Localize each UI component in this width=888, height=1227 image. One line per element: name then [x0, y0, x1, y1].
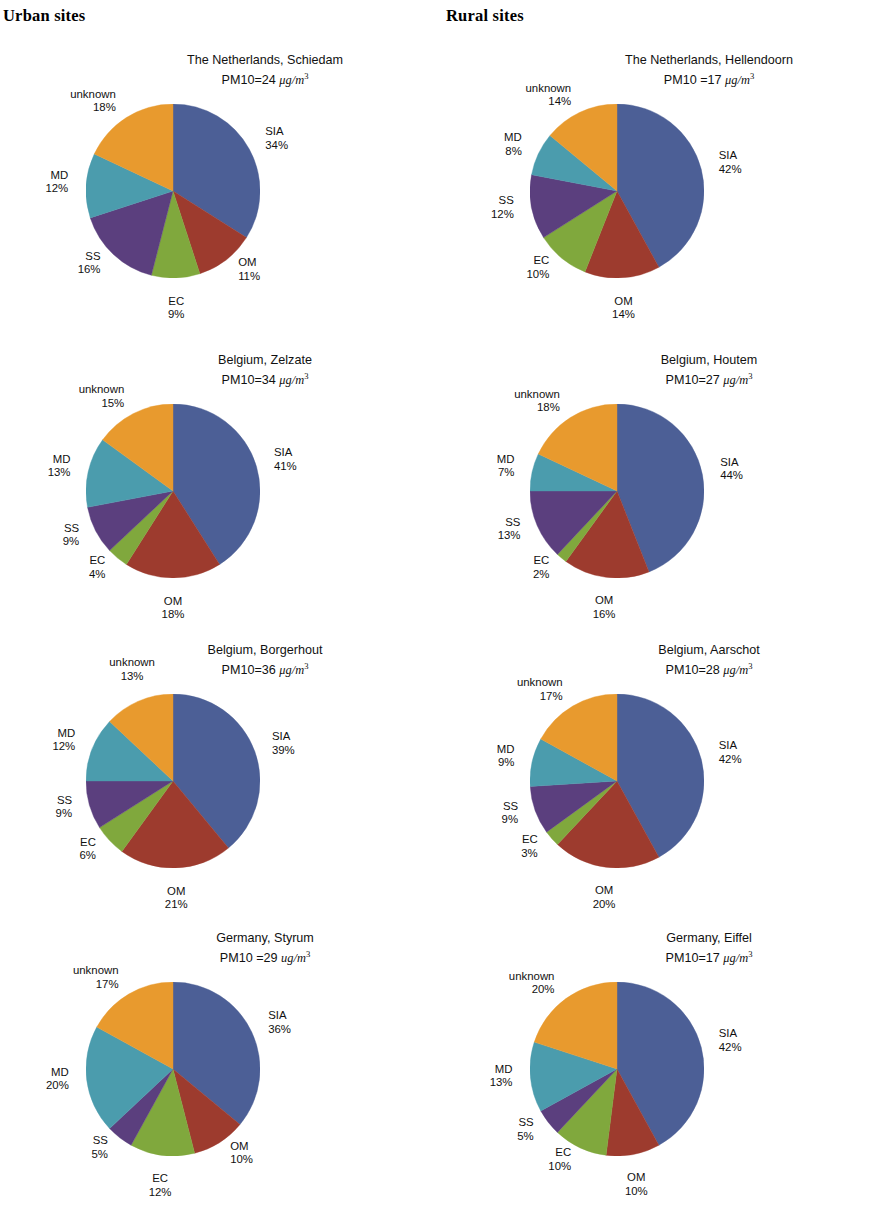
- pie-graphic-houtem: [530, 404, 704, 578]
- pie-label-name: unknown: [73, 964, 119, 976]
- pie-label-ss-borgerhout: SS9%: [56, 794, 72, 821]
- pie-label-percent: 9%: [56, 807, 72, 820]
- pie-label-percent: 15%: [79, 397, 125, 410]
- pie-label-name: EC: [534, 554, 550, 566]
- pie-label-name: MD: [51, 1066, 69, 1078]
- chart-site-name: Germany, Eiffel: [666, 931, 752, 945]
- pie-label-om-schiedam: OM11%: [238, 256, 260, 283]
- pie-label-percent: 36%: [268, 1023, 291, 1036]
- chart-pm10-value: PM10=34 μg/m3: [218, 368, 312, 388]
- pie-label-name: MD: [497, 453, 515, 465]
- pie-label-percent: 9%: [63, 535, 79, 548]
- pie-label-name: SIA: [719, 739, 737, 751]
- pie-label-sia-borgerhout: SIA39%: [272, 730, 295, 757]
- pie-graphic-borgerhout: [86, 694, 260, 868]
- pie-label-percent: 5%: [91, 1148, 107, 1161]
- pie-label-percent: 13%: [490, 1076, 513, 1089]
- pie-label-percent: 13%: [109, 670, 155, 683]
- pie-label-md-hellendoorn: MD8%: [504, 131, 522, 158]
- pie-label-name: OM: [627, 1171, 645, 1183]
- pie-label-om-borgerhout: OM21%: [165, 885, 188, 912]
- pie-label-percent: 13%: [498, 529, 521, 542]
- pie-label-percent: 14%: [612, 308, 635, 321]
- pie-label-name: MD: [58, 727, 76, 739]
- pie-label-percent: 7%: [497, 466, 515, 479]
- pie-label-name: SS: [93, 1134, 108, 1146]
- chart-title-houtem: Belgium, HoutemPM10=27 μg/m3: [444, 352, 888, 388]
- pie-label-percent: 10%: [230, 1153, 253, 1166]
- pie-label-percent: 6%: [79, 849, 95, 862]
- pie-label-percent: 16%: [593, 608, 616, 621]
- pie-label-name: MD: [504, 131, 522, 143]
- pie-label-name: OM: [595, 884, 613, 896]
- pie-label-percent: 17%: [73, 978, 119, 991]
- pie-chart-schiedam: The Netherlands, SchiedamPM10=24 μg/m3SI…: [0, 52, 444, 344]
- pie-label-unknown-houtem: unknown18%: [514, 388, 560, 415]
- chart-site-name: Germany, Styrum: [216, 931, 314, 945]
- pie-label-name: MD: [497, 743, 515, 755]
- pie-label-percent: 17%: [517, 690, 563, 703]
- pie-label-ec-houtem: EC2%: [533, 554, 549, 581]
- pie-label-percent: 9%: [497, 756, 515, 769]
- pie-label-name: SS: [499, 194, 514, 206]
- chart-title-borgerhout: Belgium, BorgerhoutPM10=36 μg/m3: [0, 642, 444, 678]
- pie-label-name: MD: [50, 169, 68, 181]
- chart-site-name: Belgium, Borgerhout: [208, 643, 323, 657]
- chart-site-name: The Netherlands, Schiedam: [187, 53, 343, 67]
- pie-label-name: OM: [614, 295, 632, 307]
- pie-graphic-eiffel: [530, 982, 704, 1156]
- pie-label-name: SS: [85, 250, 100, 262]
- pie-label-sia-styrum: SIA36%: [268, 1009, 291, 1036]
- pie-graphic-zelzate: [86, 404, 260, 578]
- pie-label-percent: 5%: [517, 1130, 533, 1143]
- chart-unit: μg/m3: [725, 73, 754, 87]
- chart-title-schiedam: The Netherlands, SchiedamPM10=24 μg/m3: [0, 52, 444, 88]
- pie-label-name: SS: [505, 516, 520, 528]
- pie-label-om-zelzate: OM18%: [162, 595, 185, 622]
- pie-label-name: SS: [503, 800, 518, 812]
- pie-chart-houtem: Belgium, HoutemPM10=27 μg/m3SIA44%OM16%E…: [444, 352, 888, 644]
- pie-label-percent: 10%: [625, 1185, 648, 1198]
- chart-unit: μg/m3: [723, 373, 752, 387]
- pie-label-percent: 10%: [527, 268, 550, 281]
- pie-label-name: SIA: [274, 446, 292, 458]
- urban-sites-header: Urban sites: [3, 6, 85, 26]
- pie-label-sia-schiedam: SIA34%: [265, 125, 288, 152]
- chart-unit: μg/m3: [279, 663, 308, 677]
- pie-label-percent: 42%: [719, 753, 742, 766]
- pie-label-percent: 41%: [274, 460, 297, 473]
- pie-label-percent: 4%: [89, 568, 105, 581]
- chart-pm10-value: PM10=24 μg/m3: [187, 68, 343, 88]
- pie-label-ec-schiedam: EC9%: [168, 295, 184, 322]
- pie-label-ss-eiffel: SS5%: [517, 1116, 533, 1143]
- pie-label-md-schiedam: MD12%: [45, 169, 68, 196]
- chart-pm10-value: PM10=17 μg/m3: [666, 946, 753, 966]
- pie-label-name: SS: [64, 522, 79, 534]
- pie-label-sia-houtem: SIA44%: [720, 456, 743, 483]
- pie-label-unknown-eiffel: unknown20%: [509, 970, 555, 997]
- pie-label-name: SS: [518, 1116, 533, 1128]
- pie-label-name: unknown: [79, 383, 125, 395]
- pie-chart-hellendoorn: The Netherlands, HellendoornPM10 =17 μg/…: [444, 52, 888, 344]
- pie-label-ec-styrum: EC12%: [149, 1172, 172, 1199]
- pie-label-percent: 12%: [52, 740, 75, 753]
- pie-label-name: OM: [238, 256, 256, 268]
- chart-pm10-value: PM10=36 μg/m3: [208, 658, 323, 678]
- pie-label-unknown-zelzate: unknown15%: [79, 383, 125, 410]
- pie-label-md-styrum: MD20%: [46, 1066, 69, 1093]
- pie-label-ec-eiffel: EC10%: [548, 1146, 571, 1173]
- pie-label-md-houtem: MD7%: [497, 453, 515, 480]
- pie-label-name: SIA: [268, 1009, 286, 1021]
- pie-label-name: EC: [152, 1172, 168, 1184]
- pie-label-percent: 20%: [46, 1079, 69, 1092]
- pie-label-sia-eiffel: SIA42%: [719, 1027, 742, 1054]
- pie-chart-styrum: Germany, StyrumPM10 =29 ug/m3SIA36%OM10%…: [0, 930, 444, 1222]
- pie-label-name: EC: [168, 295, 184, 307]
- pie-label-name: EC: [555, 1146, 571, 1158]
- pie-label-unknown-aarschot: unknown17%: [517, 676, 563, 703]
- pie-label-percent: 20%: [593, 898, 616, 911]
- pie-label-unknown-styrum: unknown17%: [73, 964, 119, 991]
- pie-label-ss-schiedam: SS16%: [78, 250, 101, 277]
- pie-label-percent: 12%: [491, 208, 514, 221]
- pie-label-percent: 11%: [238, 270, 260, 283]
